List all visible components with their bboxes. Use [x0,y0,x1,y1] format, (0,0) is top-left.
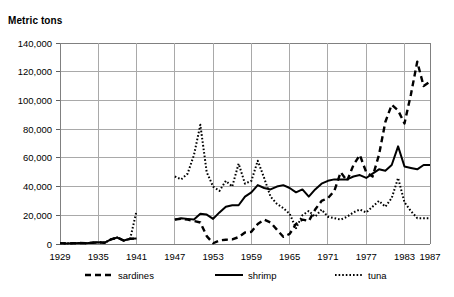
x-axis-tick-label: 1965 [279,251,300,262]
x-axis-tick-label: 1987 [419,251,440,262]
series-sardines [60,62,430,244]
x-axis-tick-label: 1929 [49,251,70,262]
chart-container: Metric tons 140,000120,000100,00080,0006… [0,0,454,297]
y-axis-tick-label: 40,000 [23,181,52,192]
x-axis-tick-label: 1983 [394,251,415,262]
legend-label-tuna: tuna [368,270,387,281]
x-axis-tick-label: 1941 [126,251,147,262]
legend-label-sardines: sardines [118,270,154,281]
x-axis-tick-label: 1935 [88,251,109,262]
legend-swatch-tuna [335,270,363,280]
legend-label-shrimp: shrimp [248,270,277,281]
x-axis-tick-label: 1971 [317,251,338,262]
chart-legend: sardinesshrimptuna [0,268,454,290]
legend-item-sardines[interactable]: sardines [85,268,154,282]
series-layer [60,62,430,244]
y-axis-tick-label: 80,000 [23,124,52,135]
y-axis-tick-label: 120,000 [18,66,52,77]
x-axis-tick-label: 1947 [164,251,185,262]
series-tuna [60,125,430,244]
x-axis-tick-labels: 1929193519411947195319591965197119771983… [49,251,440,262]
series-shrimp [60,146,430,243]
x-axis-tick-label: 1977 [356,251,377,262]
y-axis-tick-label: 20,000 [23,210,52,221]
y-axis-tick-label: 100,000 [18,95,52,106]
grid-layer [56,43,430,244]
y-axis-tick-label: 140,000 [18,38,52,49]
chart-plot: 140,000120,000100,00080,00060,00040,0002… [0,0,454,297]
legend-item-shrimp[interactable]: shrimp [215,268,277,282]
x-axis-tick-label: 1953 [203,251,224,262]
y-axis-tick-labels: 140,000120,000100,00080,00060,00040,0002… [18,38,52,250]
legend-swatch-sardines [85,270,113,280]
y-axis-tick-label: 0 [47,239,52,250]
legend-swatch-shrimp [215,270,243,280]
legend-item-tuna[interactable]: tuna [335,268,387,282]
x-axis-tick-label: 1959 [241,251,262,262]
y-axis-tick-label: 60,000 [23,152,52,163]
